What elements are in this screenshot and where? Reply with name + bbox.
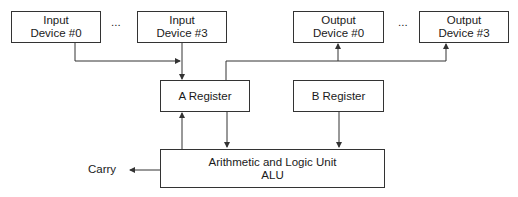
alu-line1: Arithmetic and Logic Unit [209, 156, 337, 169]
output-ellipsis: ... [398, 16, 408, 28]
input-device-3-box: Input Device #3 [137, 11, 227, 43]
input-device-3-line1: Input [169, 14, 195, 27]
output-device-3-box: Output Device #3 [419, 11, 509, 43]
output-device-3-line2: Device #3 [438, 27, 489, 40]
input-device-0-line2: Device #0 [30, 27, 81, 40]
alu-box: Arithmetic and Logic Unit ALU [160, 149, 385, 188]
b-register-label: B Register [312, 90, 366, 103]
output-device-3-line1: Output [447, 14, 482, 27]
a-register-box: A Register [160, 80, 250, 112]
output-device-0-box: Output Device #0 [293, 11, 384, 43]
input-device-0-box: Input Device #0 [11, 11, 101, 43]
input-device-3-line2: Device #3 [156, 27, 207, 40]
alu-line2: ALU [261, 169, 283, 182]
output-device-0-line1: Output [321, 14, 356, 27]
input-ellipsis: ... [111, 16, 121, 28]
a-register-label: A Register [178, 90, 231, 103]
carry-label: Carry [88, 163, 116, 175]
input-device-0-line1: Input [43, 14, 69, 27]
b-register-box: B Register [293, 80, 384, 112]
output-device-0-line2: Device #0 [313, 27, 364, 40]
